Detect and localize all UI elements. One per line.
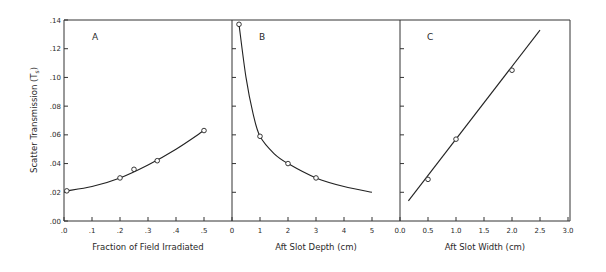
x-axis-label-a: Fraction of Field Irradiated xyxy=(92,242,203,252)
curve-a xyxy=(67,131,204,191)
data-point xyxy=(202,128,207,133)
x-tick-label: 1.5 xyxy=(478,227,489,235)
x-tick-label: 0.5 xyxy=(422,227,433,235)
data-point xyxy=(510,68,515,73)
x-tick-label: .4 xyxy=(173,227,180,235)
plot-frame xyxy=(64,20,570,221)
panel-letter-c: C xyxy=(427,32,433,42)
y-tick-label: .10 xyxy=(50,74,61,82)
x-tick-label: 2.5 xyxy=(534,227,545,235)
data-point xyxy=(258,134,263,139)
x-tick-label: .0 xyxy=(61,227,68,235)
curve-b xyxy=(239,24,372,192)
x-axis-label-b: Aft Slot Depth (cm) xyxy=(275,242,357,252)
inner-y-ticks xyxy=(232,49,404,193)
y-tick-label: .14 xyxy=(50,17,62,25)
data-point xyxy=(314,176,319,181)
x-tick-label: 3.0 xyxy=(562,227,573,235)
x-axis-ticks xyxy=(64,217,568,221)
y-tick-label: .02 xyxy=(50,189,61,197)
panel-letter-b: B xyxy=(259,32,265,42)
panel-letter-a: A xyxy=(92,32,99,42)
x-tick-label: 1 xyxy=(258,227,262,235)
curve-c xyxy=(408,30,540,201)
data-point xyxy=(65,189,70,194)
data-point xyxy=(454,137,459,142)
x-tick-label: 4 xyxy=(342,227,347,235)
x-tick-label: .3 xyxy=(145,227,152,235)
x-tick-label: .1 xyxy=(89,227,96,235)
x-tick-label: 0 xyxy=(230,227,234,235)
data-markers xyxy=(65,22,515,193)
y-tick-label: .00 xyxy=(50,218,61,226)
x-tick-label: 2 xyxy=(286,227,290,235)
x-tick-label: 3 xyxy=(314,227,318,235)
x-tick-label: 5 xyxy=(370,227,374,235)
data-point xyxy=(118,176,123,181)
data-point xyxy=(286,161,291,166)
y-tick-label: .12 xyxy=(50,45,61,53)
x-tick-label: 2.0 xyxy=(506,227,517,235)
figure: .00.02.04.06.08.10.12.14 Scatter Transmi… xyxy=(0,0,606,272)
data-point xyxy=(237,22,242,27)
x-tick-label: 1.0 xyxy=(450,227,461,235)
x-axis-label-c: Aft Slot Width (cm) xyxy=(445,242,525,252)
data-point xyxy=(426,177,431,182)
data-curves xyxy=(67,24,540,201)
y-tick-label: .08 xyxy=(50,103,61,111)
y-tick-label: .06 xyxy=(50,131,62,139)
x-tick-label: 0.0 xyxy=(394,227,405,235)
y-axis-tick-labels: .00.02.04.06.08.10.12.14 xyxy=(50,17,62,226)
data-point xyxy=(155,158,160,163)
x-tick-label: .2 xyxy=(117,227,124,235)
data-point xyxy=(132,167,137,172)
y-axis-label: Scatter Transmission (Ts) xyxy=(29,67,40,173)
x-tick-label: .5 xyxy=(201,227,208,235)
y-tick-label: .04 xyxy=(50,160,62,168)
x-axis-tick-labels: .0.1.2.3.4.50123450.00.51.01.52.02.53.0 xyxy=(61,227,574,235)
